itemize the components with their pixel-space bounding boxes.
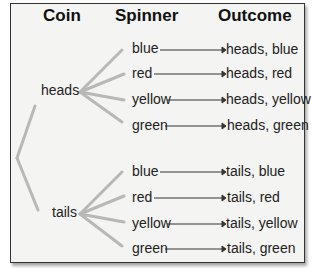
outcome-heads-green: heads, green [227, 117, 309, 133]
coin-tails: tails [52, 204, 77, 220]
spin-tails-yellow: yellow [132, 215, 171, 231]
outcome-heads-yellow: heads, yellow [226, 91, 311, 107]
spin-heads-red: red [132, 65, 152, 81]
outcome-heads-blue: heads, blue [226, 41, 298, 57]
coin-heads: heads [41, 82, 79, 98]
outcome-tails-green: tails, green [227, 240, 295, 256]
outcome-tails-yellow: tails, yellow [226, 215, 298, 231]
spin-tails-red: red [132, 189, 152, 205]
spin-heads-blue: blue [132, 40, 158, 56]
header-outcome: Outcome [218, 6, 292, 26]
spin-tails-blue: blue [132, 163, 158, 179]
outcome-heads-red: heads, red [226, 65, 292, 81]
header-coin: Coin [43, 6, 81, 26]
outcome-tails-blue: tails, blue [226, 163, 285, 179]
spin-tails-green: green [132, 240, 168, 256]
spin-heads-green: green [132, 117, 168, 133]
outcome-tails-red: tails, red [227, 189, 280, 205]
spin-heads-yellow: yellow [132, 91, 171, 107]
header-spinner: Spinner [115, 6, 178, 26]
